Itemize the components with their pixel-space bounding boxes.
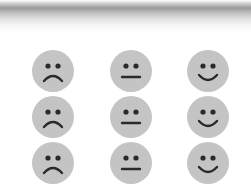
top-bar-shadow [0, 0, 251, 32]
sad-face-icon[interactable] [32, 50, 74, 92]
neutral-face-icon[interactable] [110, 142, 152, 184]
sad-face-icon[interactable] [32, 142, 74, 184]
happy-face-icon[interactable] [187, 96, 229, 138]
neutral-face-icon[interactable] [110, 96, 152, 138]
neutral-face-icon[interactable] [110, 50, 152, 92]
happy-face-icon[interactable] [187, 50, 229, 92]
happy-face-icon[interactable] [187, 142, 229, 184]
sad-face-icon[interactable] [32, 96, 74, 138]
